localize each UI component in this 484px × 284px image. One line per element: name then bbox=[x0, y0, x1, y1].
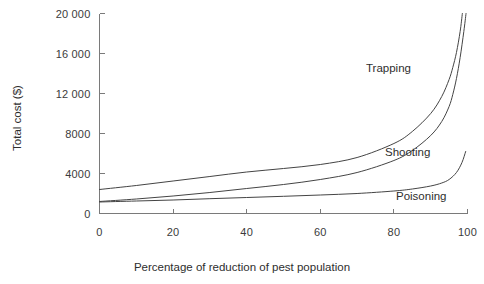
x-tick-label: 20 bbox=[167, 226, 180, 238]
y-axis-title: Total cost ($) bbox=[11, 85, 23, 151]
series-curve-trapping bbox=[100, 14, 463, 190]
x-tick-label: 100 bbox=[458, 226, 477, 238]
x-tick-label: 60 bbox=[314, 226, 327, 238]
series-label-shooting: Shooting bbox=[385, 146, 430, 158]
y-tick-label: 20 000 bbox=[0, 8, 91, 20]
y-tick-marks bbox=[100, 14, 105, 174]
series-curve-shooting bbox=[100, 14, 467, 202]
x-tick-label: 0 bbox=[96, 226, 102, 238]
x-tick-label: 80 bbox=[388, 226, 401, 238]
series-label-poisoning: Poisoning bbox=[396, 190, 447, 202]
series-label-trapping: Trapping bbox=[366, 62, 411, 74]
x-tick-marks bbox=[100, 209, 468, 214]
y-tick-label: 4000 bbox=[0, 168, 91, 180]
y-tick-label: 16 000 bbox=[0, 48, 91, 60]
series-curves bbox=[100, 14, 467, 203]
y-tick-label: 0 bbox=[0, 208, 91, 220]
plot-area bbox=[0, 0, 484, 284]
pest-control-cost-chart: 04000800012 00016 00020 000 020406080100… bbox=[0, 0, 484, 284]
x-tick-label: 40 bbox=[240, 226, 253, 238]
x-axis-title: Percentage of reduction of pest populati… bbox=[0, 261, 484, 273]
